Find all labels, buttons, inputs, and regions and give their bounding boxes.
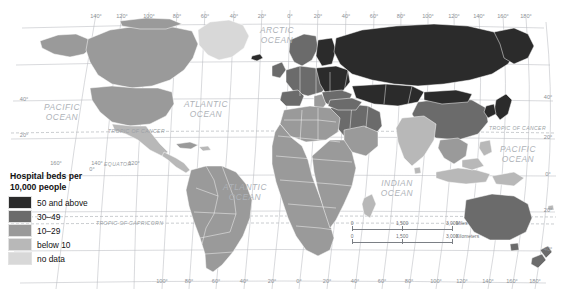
lon-bot-label-14: 180°: [529, 278, 541, 284]
lat-left-label-1: 20°: [20, 132, 28, 138]
lon-top-label-1: 120°: [116, 13, 128, 19]
legend-label-0: 50 and above: [37, 198, 88, 208]
pacific-ocean-east-line1: PACIFIC: [500, 144, 536, 154]
atlantic-ocean-south-line1: ATLANTIC: [222, 182, 267, 192]
lat-right-label-2: 0°: [545, 171, 550, 177]
lon-top-label-10: 60°: [370, 13, 378, 19]
legend-swatch-3: [8, 238, 32, 251]
world-map: ARCTICOCEANPACIFICOCEANATLANTICOCEANATLA…: [0, 0, 566, 297]
scalebar-kilometers: 01,5003,000Kilometers: [348, 234, 460, 247]
lon-bot-label-13: 160°: [506, 278, 518, 284]
lat-right-label-4: 40°: [544, 246, 552, 252]
legend-item-0: 50 and above: [8, 196, 130, 209]
indian-ocean-line2: OCEAN: [381, 188, 414, 198]
lon-bot-label-1: 80°: [185, 278, 193, 284]
lon-top-label-3: 80°: [173, 13, 181, 19]
lon-bot-label-9: 80°: [405, 278, 413, 284]
lon-ll-label-0: 160°: [50, 160, 62, 166]
map-scale-bars: 01,5003,000Miles01,5003,000Kilometers: [348, 221, 460, 247]
lon-bot-label-11: 120°: [456, 278, 468, 284]
legend-item-3: below 10: [8, 238, 130, 251]
legend-item-2: 10–29: [8, 224, 130, 237]
lon-top-label-2: 100°: [143, 13, 155, 19]
pacific-ocean-east-line2: OCEAN: [502, 154, 535, 164]
legend-items: 50 and above30–4910–29below 10no data: [8, 196, 130, 265]
legend-swatch-1: [8, 210, 32, 223]
scalebar-tick-label: 0: [351, 221, 354, 226]
scalebar-tick: [402, 239, 403, 244]
island-tasmania: [510, 243, 519, 251]
country-turkey: [328, 98, 362, 110]
scalebar-unit: Kilometers: [456, 234, 479, 239]
scalebar-tick-label: 1,500: [396, 234, 408, 239]
pacific-ocean-west-line1: PACIFIC: [44, 102, 80, 112]
scalebar-tick-label: 1,500: [396, 221, 408, 226]
legend-swatch-2: [8, 224, 32, 237]
lon-bot-label-8: 60°: [378, 278, 386, 284]
lon-top-label-15: 160°: [497, 13, 509, 19]
lon-top-label-11: 80°: [397, 13, 405, 19]
legend-label-1: 30–49: [37, 212, 60, 222]
lon-top-label-16: 180°: [520, 13, 532, 19]
atlantic-ocean-north-line1: ATLANTIC: [183, 99, 228, 109]
lon-ll-label-2: 120°: [128, 160, 140, 166]
legend-item-1: 30–49: [8, 210, 130, 223]
lat-right-label-0: 40°: [544, 94, 552, 100]
legend-title: Hospital beds per 10,000 people: [10, 171, 130, 192]
scalebar-tick: [452, 226, 453, 231]
legend-label-4: no data: [37, 254, 65, 264]
map-legend: Hospital beds per 10,000 people 50 and a…: [8, 171, 130, 266]
lon-top-label-13: 120°: [448, 13, 460, 19]
lon-bot-label-4: 20°: [268, 278, 276, 284]
lon-top-label-12: 100°: [422, 13, 434, 19]
arctic-ocean-line2: OCEAN: [261, 35, 294, 45]
country-sri-lanka: [414, 167, 421, 174]
tropic-of-cancer-left-label: TROPIC OF CANCER: [108, 128, 165, 134]
scalebar-unit: Miles: [456, 221, 467, 226]
lat-left-label-0: 40°: [20, 96, 28, 102]
pacific-ocean-west-line2: OCEAN: [46, 112, 79, 122]
arctic-ocean-line1: ARCTIC: [259, 25, 295, 35]
scalebar-tick: [352, 239, 353, 244]
lon-bot-label-10: 100°: [430, 278, 442, 284]
lon-bot-label-2: 60°: [212, 278, 220, 284]
indian-ocean-line1: INDIAN: [381, 178, 413, 188]
legend-swatch-4: [8, 252, 32, 265]
lon-bot-label-0: 100°: [156, 278, 168, 284]
atlantic-ocean-north-line2: OCEAN: [190, 109, 223, 119]
atlantic-ocean-south-line2: OCEAN: [229, 192, 262, 202]
lon-top-label-9: 40°: [342, 13, 350, 19]
lon-top-label-0: 140°: [90, 13, 102, 19]
scalebar-tick: [402, 226, 403, 231]
scalebar-miles: 01,5003,000Miles: [348, 221, 460, 234]
lon-bot-label-12: 140°: [482, 278, 494, 284]
lon-bot-label-3: 40°: [240, 278, 248, 284]
legend-swatch-0: [8, 196, 32, 209]
scalebar-tick-label: 0: [351, 234, 354, 239]
country-spain-portugal: [280, 90, 304, 106]
legend-label-3: below 10: [37, 240, 71, 250]
lon-top-label-14: 140°: [473, 13, 485, 19]
lat-right-label-1: 20°: [544, 134, 552, 140]
lon-bot-label-7: 40°: [351, 278, 359, 284]
lon-top-label-7: 0°: [287, 13, 292, 19]
lon-bot-label-5: 0°: [296, 278, 301, 284]
lon-top-label-8: 20°: [314, 13, 322, 19]
legend-label-2: 10–29: [37, 226, 60, 236]
lon-bot-label-6: 20°: [323, 278, 331, 284]
scalebar-tick: [352, 226, 353, 231]
lon-top-label-6: 20°: [258, 13, 266, 19]
tropic-of-cancer-right-label: TROPIC OF CANCER: [489, 125, 546, 131]
lon-top-label-5: 40°: [230, 13, 238, 19]
lon-top-label-4: 60°: [201, 13, 209, 19]
legend-item-4: no data: [8, 252, 130, 265]
scalebar-tick: [452, 239, 453, 244]
lat-right-label-3: 20°: [544, 207, 552, 213]
